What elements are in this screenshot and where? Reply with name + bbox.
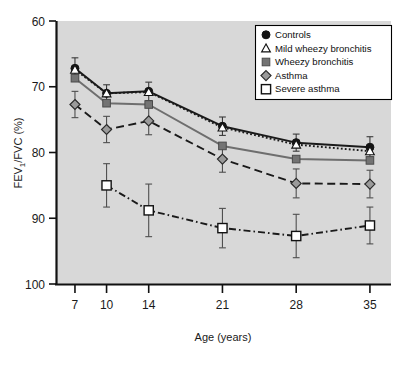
y-tick-label: 90 — [32, 212, 46, 226]
data-point-wheezy-bronchitis — [292, 155, 300, 163]
data-point-severe-asthma — [365, 221, 374, 230]
x-tick-label: 28 — [290, 298, 304, 312]
y-tick-label: 60 — [32, 15, 46, 29]
x-axis-title-label: Age (years) — [195, 331, 252, 343]
legend-label-mild-wheezy-bronchitis: Mild wheezy bronchitis — [275, 43, 372, 54]
data-point-wheezy-bronchitis — [219, 142, 227, 150]
x-tick-label: 7 — [72, 298, 79, 312]
filled-circle-icon — [262, 31, 270, 39]
fev1-fvc-vs-age-line-chart: 10090807060 71014212835 FEV1/FVC (%) Age… — [0, 0, 403, 365]
chart-legend: ControlsMild wheezy bronchitisWheezy bro… — [256, 26, 392, 100]
y-tick-label: 100 — [25, 278, 45, 292]
legend-label-wheezy-bronchitis: Wheezy bronchitis — [275, 56, 354, 67]
x-tick-label: 35 — [363, 298, 377, 312]
legend-label-severe-asthma: Severe asthma — [275, 83, 340, 94]
data-point-wheezy-bronchitis — [71, 74, 79, 82]
data-point-severe-asthma — [144, 206, 153, 215]
data-point-severe-asthma — [292, 231, 301, 240]
legend-label-controls: Controls — [275, 29, 311, 40]
y-tick-label: 80 — [32, 146, 46, 160]
open-square-icon — [261, 85, 270, 94]
data-point-wheezy-bronchitis — [103, 99, 111, 107]
chart-figure: 10090807060 71014212835 FEV1/FVC (%) Age… — [0, 0, 403, 365]
filled-square-icon — [262, 58, 270, 66]
x-tick-label: 10 — [100, 298, 114, 312]
x-tick-label: 14 — [142, 298, 156, 312]
data-point-wheezy-bronchitis — [145, 101, 153, 109]
legend-label-asthma: Asthma — [275, 70, 308, 81]
data-point-severe-asthma — [218, 224, 227, 233]
data-point-severe-asthma — [102, 181, 111, 190]
y-tick-label: 70 — [32, 80, 46, 94]
data-point-wheezy-bronchitis — [366, 157, 374, 165]
x-tick-label: 21 — [216, 298, 230, 312]
